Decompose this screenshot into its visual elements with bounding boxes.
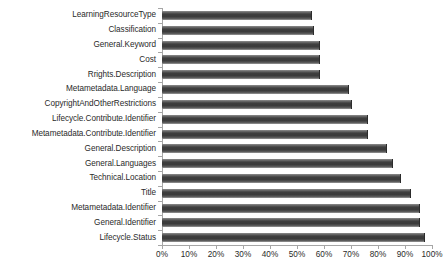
bar: [162, 115, 368, 124]
x-axis-label: 80%: [370, 249, 386, 261]
category-label: General.Description: [0, 144, 156, 154]
x-axis-label: 40%: [262, 249, 278, 261]
x-axis-label: 10%: [181, 249, 197, 261]
x-axis-label: 100%: [422, 249, 443, 261]
bar-row: [162, 186, 432, 201]
bar-row: [162, 8, 432, 23]
bar-row: [162, 112, 432, 127]
bar: [162, 11, 312, 20]
bar-row: [162, 230, 432, 245]
bar: [162, 130, 368, 139]
bar: [162, 233, 425, 242]
category-label: General.Languages: [0, 159, 156, 169]
bar-row: [162, 201, 432, 216]
category-label: General.Identifier: [0, 218, 156, 228]
category-label: Rrights.Description: [0, 70, 156, 80]
bar: [162, 159, 393, 168]
bar-row: [162, 23, 432, 38]
bar: [162, 100, 352, 109]
bar-row: [162, 38, 432, 53]
category-axis-labels: LearningResourceTypeClassificationGenera…: [0, 8, 156, 245]
category-label: CopyrightAndOtherRestrictions: [0, 99, 156, 109]
category-label: Metametadata.Identifier: [0, 203, 156, 213]
bar-row: [162, 215, 432, 230]
bar-row: [162, 52, 432, 67]
bar-row: [162, 171, 432, 186]
category-label: Lifecycle.Status: [0, 233, 156, 243]
bar: [162, 174, 401, 183]
bar: [162, 26, 314, 35]
x-axis-label: 60%: [316, 249, 332, 261]
x-axis-label: 90%: [397, 249, 413, 261]
category-label: General.Keyword: [0, 40, 156, 50]
category-label: Title: [0, 188, 156, 198]
bar-row: [162, 156, 432, 171]
plot-area: [162, 8, 432, 245]
bar-row: [162, 127, 432, 142]
category-label: Technical.Location: [0, 173, 156, 183]
bar: [162, 218, 420, 227]
bar-row: [162, 67, 432, 82]
bar-row: [162, 97, 432, 112]
x-axis-label: 50%: [289, 249, 305, 261]
bar: [162, 85, 349, 94]
value-axis-labels: 0%10%20%30%40%50%60%70%80%90%100%: [162, 249, 432, 263]
bar-chart: LearningResourceTypeClassificationGenera…: [0, 0, 446, 273]
bar: [162, 41, 320, 50]
category-label: Cost: [0, 55, 156, 65]
category-label: LearningResourceType: [0, 10, 156, 20]
bar: [162, 70, 320, 79]
category-label: Classification: [0, 25, 156, 35]
bar-row: [162, 82, 432, 97]
x-axis-label: 0%: [156, 249, 168, 261]
bar-row: [162, 141, 432, 156]
bar: [162, 189, 411, 198]
category-label: Metametadata.Language: [0, 84, 156, 94]
bar: [162, 144, 387, 153]
bar: [162, 55, 320, 64]
x-axis-label: 70%: [343, 249, 359, 261]
category-label: Lifecycle.Contribute.Identifier: [0, 114, 156, 124]
bar: [162, 204, 420, 213]
category-label: Metametadata.Contribute.Identifier: [0, 129, 156, 139]
x-axis-label: 30%: [235, 249, 251, 261]
x-axis-label: 20%: [208, 249, 224, 261]
